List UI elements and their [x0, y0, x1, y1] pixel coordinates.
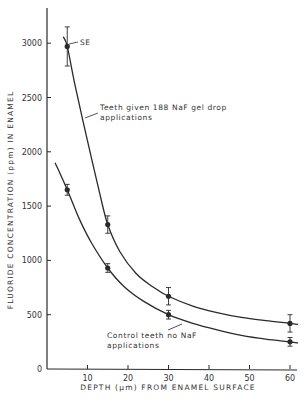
lower-series-arrow [168, 324, 182, 330]
data-point [287, 321, 292, 326]
data-point [65, 187, 70, 192]
x-tick-label: 10 [82, 374, 92, 383]
upper-series-label-line2: applications [100, 113, 152, 122]
upper-series-arrow [85, 113, 98, 118]
data-series [55, 27, 298, 346]
y-tick-label: 2500 [22, 94, 42, 103]
y-axis-title: FLUORIDE CONCENTRATION (ppm) IN ENAMEL [6, 91, 15, 310]
x-axis-title: DEPTH (µm) FROM ENAMEL SURFACE [80, 383, 256, 392]
fluoride-depth-chart: 050010001500200025003000102030405060 DEP… [0, 0, 307, 404]
data-point [65, 44, 70, 49]
y-tick-label: 3000 [22, 39, 42, 48]
data-point [166, 294, 171, 299]
y-tick-label: 1000 [22, 256, 42, 265]
x-tick-label: 40 [204, 374, 214, 383]
data-point [166, 312, 171, 317]
x-tick-label: 50 [244, 374, 254, 383]
y-tick-label: 500 [27, 311, 42, 320]
y-tick-label: 0 [37, 365, 42, 374]
y-tick-label: 2000 [22, 148, 42, 157]
x-tick-label: 60 [285, 374, 295, 383]
data-point [105, 265, 110, 270]
series-naf-gel [63, 27, 298, 332]
se-arrow [69, 42, 78, 44]
fit-curve [55, 163, 298, 343]
x-tick-label: 20 [123, 374, 133, 383]
upper-series-label-line1: Teeth given 188 NaF gel drop [99, 103, 227, 112]
x-tick-label: 30 [163, 374, 173, 383]
y-tick-label: 1500 [22, 202, 42, 211]
lower-series-label-line1: Control teeth no NaF [107, 331, 197, 340]
data-point [287, 339, 292, 344]
se-label: SE [80, 38, 91, 47]
series-control [55, 163, 298, 347]
data-point [105, 222, 110, 227]
x-axis-line [47, 369, 297, 370]
lower-series-label-line2: applications [107, 341, 159, 350]
fit-curve [63, 37, 298, 325]
